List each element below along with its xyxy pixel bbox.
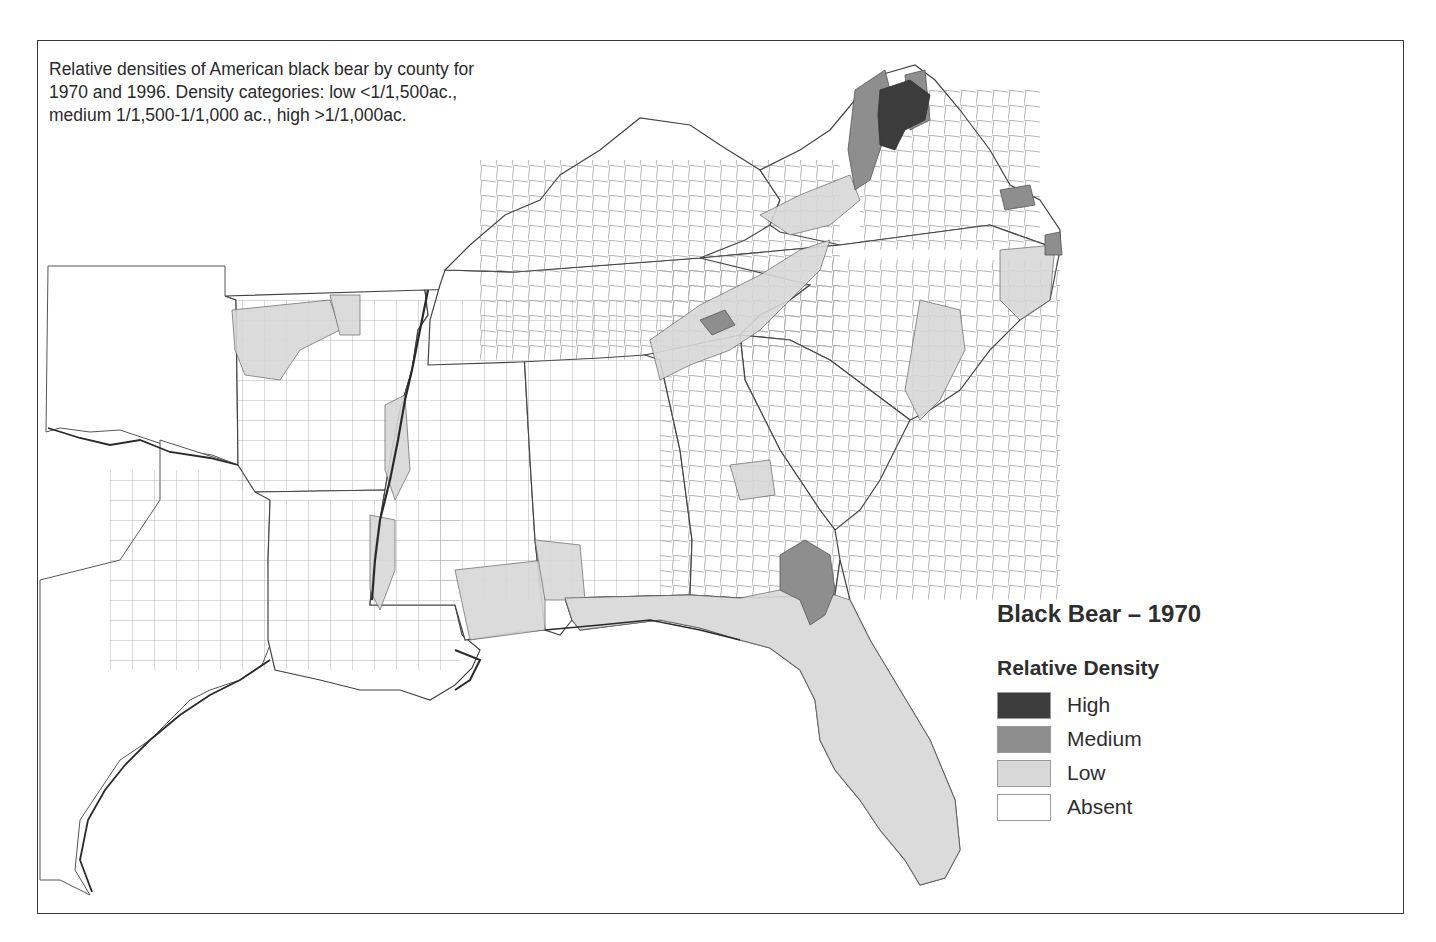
caption-line-3: medium 1/1,500-1/1,000 ac., high >1/1,00… [49,104,609,127]
legend-item-absent: Absent [997,790,1297,824]
caption-line-2: 1970 and 1996. Density categories: low <… [49,81,609,104]
legend: Black Bear – 1970 Relative Density High … [997,600,1297,824]
legend-label: High [1067,693,1110,717]
legend-item-medium: Medium [997,722,1297,756]
swatch-medium [997,726,1051,753]
legend-label: Absent [1067,795,1132,819]
map-caption: Relative densities of American black bea… [49,58,609,127]
legend-label: Low [1067,761,1106,785]
legend-subtitle: Relative Density [997,656,1297,680]
legend-label: Medium [1067,727,1142,751]
legend-item-high: High [997,688,1297,722]
swatch-absent [997,794,1051,821]
legend-title: Black Bear – 1970 [997,600,1297,628]
legend-item-low: Low [997,756,1297,790]
swatch-high [997,692,1051,719]
caption-line-1: Relative densities of American black bea… [49,58,609,81]
swatch-low [997,760,1051,787]
